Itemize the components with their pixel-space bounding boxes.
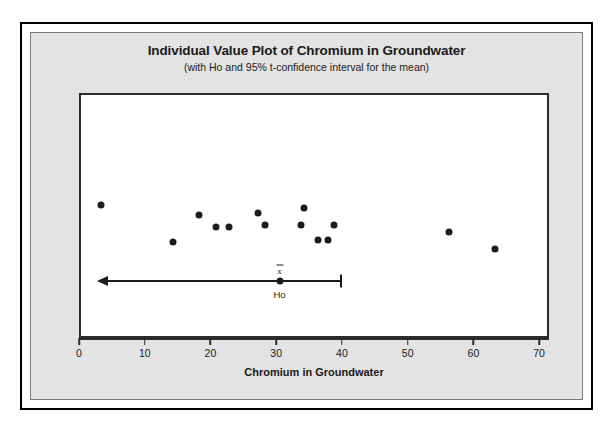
x-axis-tick [473,338,475,345]
figure-panel: Individual Value Plot of Chromium in Gro… [30,32,583,400]
x-axis-tick-label: 40 [336,347,348,359]
data-point [212,224,219,231]
x-axis-tick-label: 10 [139,347,151,359]
x-axis-tick [538,338,540,345]
x-axis-tick [144,338,146,345]
x-axis-tick [407,338,409,345]
x-axis-tick-label: 50 [402,347,414,359]
x-axis-tick [341,338,343,345]
data-point [255,209,262,216]
title-block: Individual Value Plot of Chromium in Gro… [31,43,582,73]
x-axis-line [79,338,549,340]
x-axis-tick [275,338,277,345]
data-point [196,212,203,219]
data-point [492,246,499,253]
x-axis-tick-label: 30 [270,347,282,359]
chart-subtitle: (with Ho and 95% t-confidence interval f… [31,61,582,73]
x-axis-tick-label: 60 [468,347,480,359]
data-point [170,239,177,246]
x-axis-tick [210,338,212,345]
data-point [301,204,308,211]
data-point [225,224,232,231]
data-point [446,229,453,236]
x-axis-tick [78,338,80,345]
page-canvas: Individual Value Plot of Chromium in Gro… [0,0,613,432]
x-axis-tick-label: 70 [533,347,545,359]
chart-title: Individual Value Plot of Chromium in Gro… [31,43,582,58]
data-point [331,221,338,228]
data-point [324,236,331,243]
data-point [97,202,104,209]
x-axis: Chromium in Groundwater 010203040506070 [79,338,549,339]
x-axis-tick-label: 20 [205,347,217,359]
plot-area: x Ho [79,93,549,338]
data-point [314,236,321,243]
figure-outer-frame: Individual Value Plot of Chromium in Gro… [20,22,593,410]
data-point [262,221,269,228]
x-axis-tick-label: 0 [76,347,82,359]
x-axis-title: Chromium in Groundwater [79,366,549,378]
data-point [298,221,305,228]
plot-points-layer [81,95,547,336]
